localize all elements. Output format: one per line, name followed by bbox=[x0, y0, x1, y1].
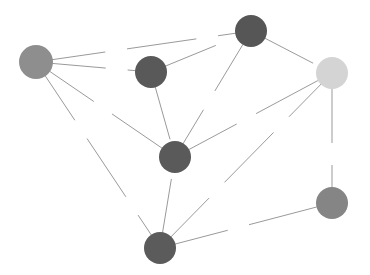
node-g bbox=[144, 232, 176, 264]
edge-c-e bbox=[175, 31, 251, 157]
edge-a-g bbox=[36, 62, 160, 248]
edge-a-b bbox=[36, 62, 151, 72]
node-f bbox=[316, 187, 348, 219]
edge-b-c bbox=[151, 31, 251, 72]
node-b bbox=[135, 56, 167, 88]
node-a bbox=[19, 45, 53, 79]
node-c bbox=[235, 15, 267, 47]
network-graph bbox=[0, 0, 370, 275]
edge-a-c bbox=[36, 31, 251, 62]
node-d bbox=[316, 57, 348, 89]
nodes-layer bbox=[19, 15, 348, 264]
edge-g-f bbox=[160, 203, 332, 248]
edge-e-d bbox=[175, 73, 332, 157]
node-e bbox=[159, 141, 191, 173]
edges-layer bbox=[36, 31, 332, 248]
